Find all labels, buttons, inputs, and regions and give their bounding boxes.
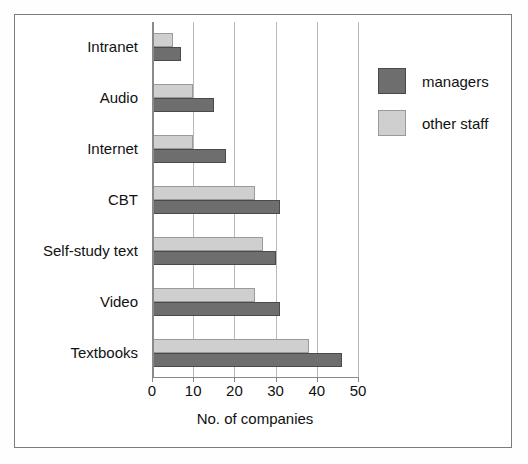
bar-group <box>152 175 358 226</box>
legend-item-managers: managers <box>378 68 489 94</box>
bar-group <box>152 327 358 378</box>
x-tick-label-10: 10 <box>185 382 202 400</box>
legend-label-managers: managers <box>422 73 489 90</box>
x-tick-label-40: 40 <box>308 382 325 400</box>
bar-other-staff <box>152 186 255 200</box>
bar-managers <box>152 149 226 163</box>
bar-other-staff <box>152 33 173 47</box>
x-tick-label-30: 30 <box>267 382 284 400</box>
bar-group <box>152 225 358 276</box>
bar-managers <box>152 200 280 214</box>
bar-group <box>152 22 358 73</box>
bar-other-staff <box>152 339 309 353</box>
bar-managers <box>152 302 280 316</box>
gridline-50 <box>358 22 359 378</box>
bar-group <box>152 276 358 327</box>
legend-item-other-staff: other staff <box>378 110 489 136</box>
x-tick-label-0: 0 <box>148 382 156 400</box>
plot-area <box>152 22 358 378</box>
chart-legend: managers other staff <box>378 68 489 152</box>
category-label: Audio <box>100 89 138 106</box>
y-axis-line <box>152 22 154 378</box>
x-tick-label-50: 50 <box>350 382 367 400</box>
x-tick-label-20: 20 <box>226 382 243 400</box>
bar-other-staff <box>152 237 263 251</box>
category-label: Intranet <box>87 38 138 55</box>
legend-swatch-other-staff <box>378 110 406 136</box>
category-label: Self-study text <box>43 242 138 259</box>
category-label: Textbooks <box>70 344 138 361</box>
bar-group <box>152 73 358 124</box>
legend-label-other-staff: other staff <box>422 115 488 132</box>
bar-managers <box>152 98 214 112</box>
x-axis-line <box>152 377 358 379</box>
chart-figure: IntranetAudioInternetCBTSelf-study textV… <box>0 0 528 464</box>
bar-other-staff <box>152 288 255 302</box>
bar-other-staff <box>152 84 193 98</box>
category-axis-labels: IntranetAudioInternetCBTSelf-study textV… <box>14 22 146 378</box>
category-label: Video <box>100 293 138 310</box>
bar-other-staff <box>152 135 193 149</box>
category-label: CBT <box>108 191 138 208</box>
x-axis-tick-labels: 01020304050 <box>152 382 358 406</box>
bar-managers <box>152 47 181 61</box>
bar-group <box>152 124 358 175</box>
bar-managers <box>152 353 342 367</box>
bar-managers <box>152 251 276 265</box>
category-label: Internet <box>87 140 138 157</box>
x-axis-title: No. of companies <box>152 410 358 427</box>
legend-swatch-managers <box>378 68 406 94</box>
